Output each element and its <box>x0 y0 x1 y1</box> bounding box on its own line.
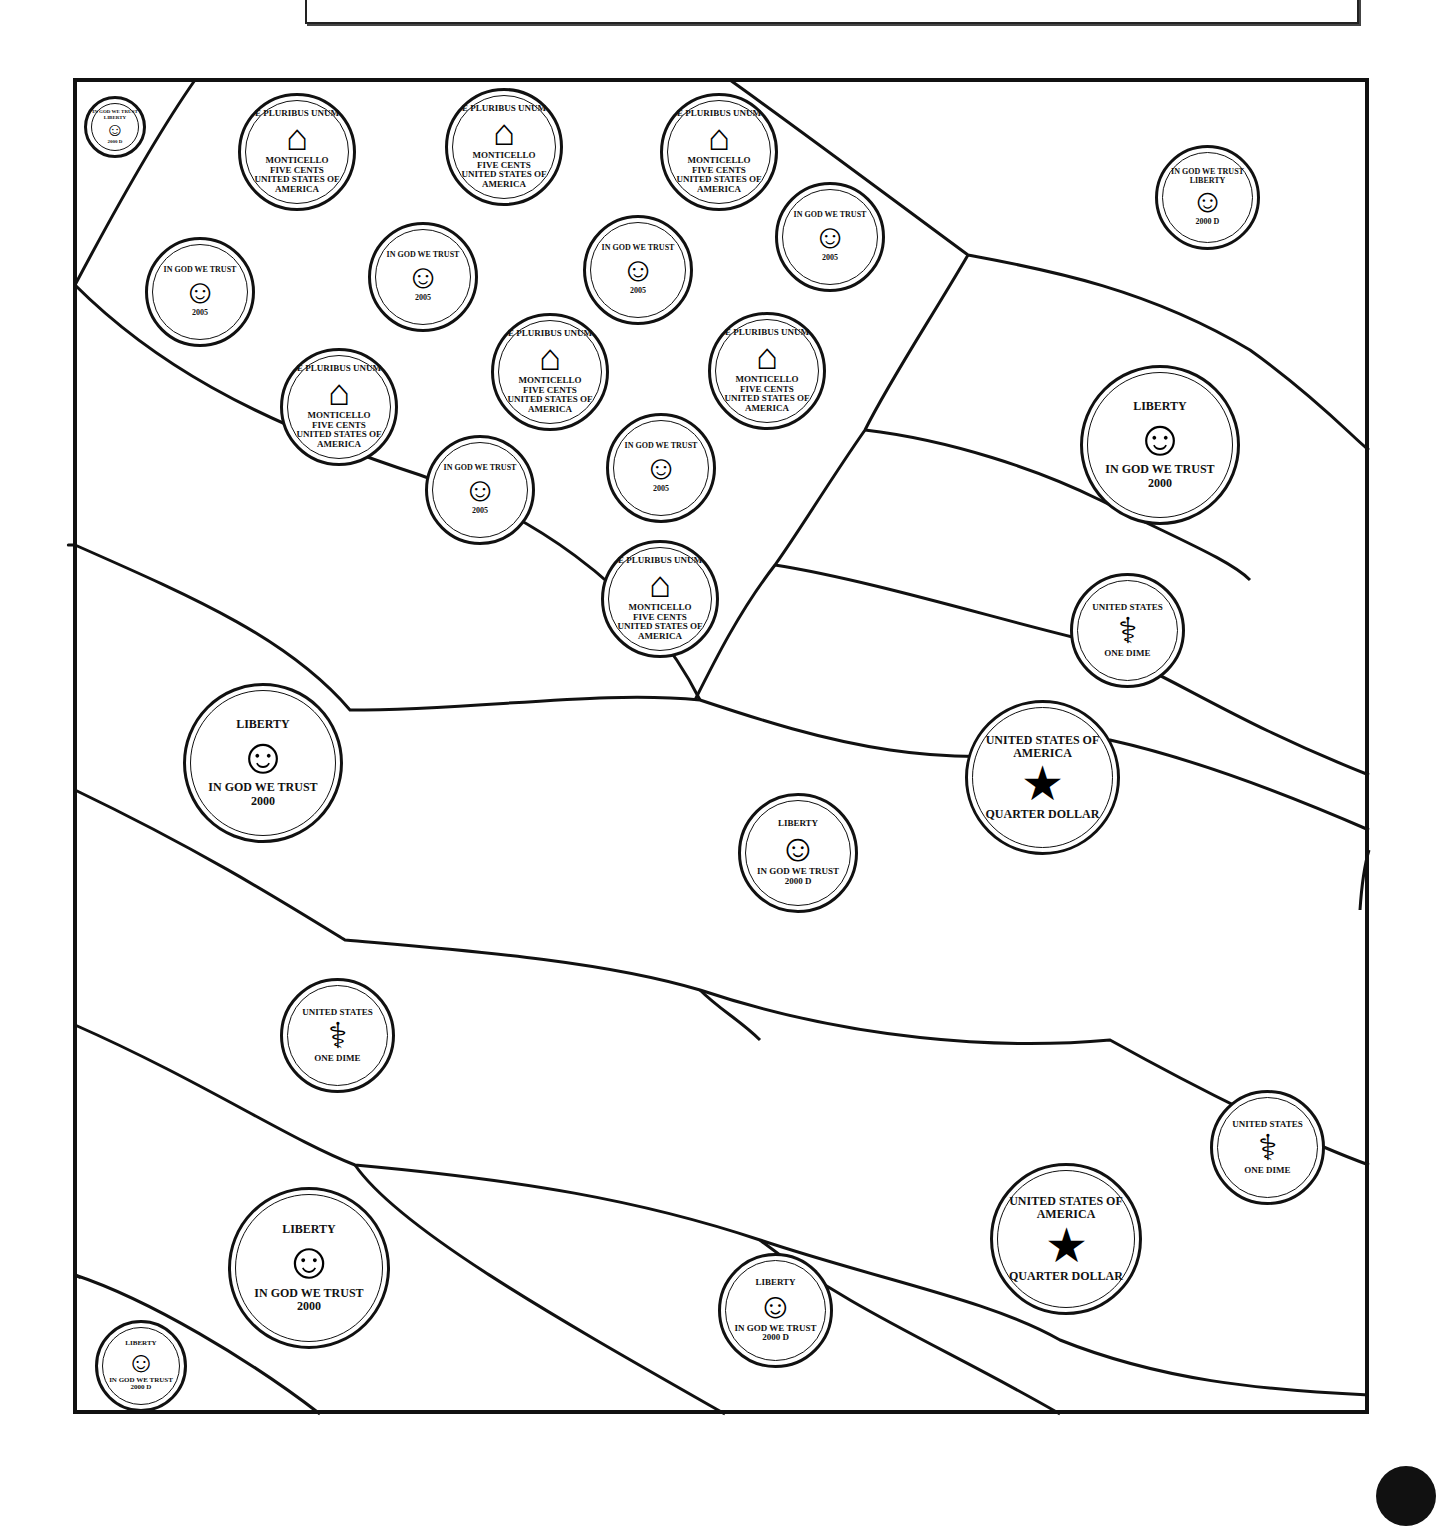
penny-lincoln-icon: ☺ <box>1191 185 1225 218</box>
coin-nickel-back: E PLURIBUS UNUM⌂MONTICELLOFIVE CENTSUNIT… <box>708 312 826 430</box>
coin-year-text: 2000 D <box>131 1384 152 1392</box>
nickel-jefferson-icon: ☺ <box>463 473 498 507</box>
monticello-icon: ⌂ <box>493 114 515 151</box>
torch-icon: ⚕ <box>328 1018 347 1054</box>
monticello-icon: ⌂ <box>756 338 778 375</box>
coin-year-text: 2000 <box>297 1300 321 1313</box>
coin-nickel-back: E PLURIBUS UNUM⌂MONTICELLOFIVE CENTSUNIT… <box>660 93 778 211</box>
coin-nickel-back: E PLURIBUS UNUM⌂MONTICELLOFIVE CENTSUNIT… <box>280 348 398 466</box>
coin-bottom-text: UNITED STATES OF AMERICA <box>448 170 560 190</box>
coin-nickel-front: IN GOD WE TRUST☺2005 <box>368 222 478 332</box>
coin-nickel-front: IN GOD WE TRUST☺2005 <box>583 215 693 325</box>
coin-bottom-text: UNITED STATES OF AMERICA <box>283 430 395 450</box>
eagle-icon: ★ <box>1045 1222 1088 1270</box>
coin-quarter-front: LIBERTY☺IN GOD WE TRUST2000 <box>183 683 343 843</box>
coin-year-text: 2000 D <box>762 1333 789 1343</box>
coin-nickel-front: IN GOD WE TRUST☺2005 <box>775 182 885 292</box>
coin-year-text: 2005 <box>630 287 646 296</box>
coin-year-text: 2005 <box>653 485 669 494</box>
nickel-jefferson-icon: ☺ <box>183 275 218 309</box>
monticello-icon: ⌂ <box>649 566 671 603</box>
coin-motto-text: IN GOD WE TRUST <box>208 781 317 794</box>
page-number-badge <box>1376 1466 1436 1526</box>
coin-nickel-back: E PLURIBUS UNUM⌂MONTICELLOFIVE CENTSUNIT… <box>491 313 609 431</box>
coin-penny: IN GOD WE TRUSTLIBERTY☺2000 D <box>84 96 146 158</box>
monticello-icon: ⌂ <box>328 374 350 411</box>
quarter-washington-icon: ☺ <box>1134 413 1185 463</box>
coin-dime-front: LIBERTY☺IN GOD WE TRUST2000 D <box>738 793 858 913</box>
quarter-washington-icon: ☺ <box>283 1236 335 1287</box>
dime-roosevelt-icon: ☺ <box>779 829 818 867</box>
coin-year-text: 2005 <box>192 309 208 318</box>
coin-year-text: 2000 <box>251 795 275 808</box>
coin-bottom-text: QUARTER DOLLAR <box>986 808 1100 821</box>
coin-motto-text: IN GOD WE TRUST <box>1105 463 1214 476</box>
coin-quarter-back: UNITED STATES OF AMERICA★QUARTER DOLLAR <box>965 700 1120 855</box>
coin-year-text: 2000 D <box>1196 218 1220 227</box>
coin-bottom-text: ONE DIME <box>1244 1166 1290 1176</box>
coin-dime-back: UNITED STATES⚕ONE DIME <box>280 978 395 1093</box>
nickel-jefferson-icon: ☺ <box>813 220 848 254</box>
monticello-icon: ⌂ <box>286 119 308 156</box>
coin-nickel-front: IN GOD WE TRUST☺2005 <box>145 237 255 347</box>
coin-nickel-front: IN GOD WE TRUST☺2005 <box>606 413 716 523</box>
coin-dime-front: LIBERTY☺IN GOD WE TRUST2000 D <box>718 1253 833 1368</box>
coin-bottom-text: UNITED STATES OF AMERICA <box>711 394 823 414</box>
monticello-icon: ⌂ <box>708 119 730 156</box>
coin-bottom-text: UNITED STATES OF AMERICA <box>663 175 775 195</box>
coin-quarter-back: UNITED STATES OF AMERICA★QUARTER DOLLAR <box>990 1163 1142 1315</box>
quarter-washington-icon: ☺ <box>237 731 288 781</box>
coin-year-text: 2005 <box>415 294 431 303</box>
coin-bottom-text: QUARTER DOLLAR <box>1009 1270 1123 1283</box>
coin-nickel-back: E PLURIBUS UNUM⌂MONTICELLOFIVE CENTSUNIT… <box>445 88 563 206</box>
coin-nickel-back: E PLURIBUS UNUM⌂MONTICELLOFIVE CENTSUNIT… <box>238 93 356 211</box>
torch-icon: ⚕ <box>1118 613 1137 649</box>
torch-icon: ⚕ <box>1258 1130 1277 1166</box>
coin-year-text: 2000 D <box>785 877 812 887</box>
coin-bottom-text: ONE DIME <box>314 1054 360 1064</box>
coin-nickel-back: E PLURIBUS UNUM⌂MONTICELLOFIVE CENTSUNIT… <box>601 540 719 658</box>
coin-top-text: UNITED STATES OF AMERICA <box>993 1195 1139 1221</box>
coin-year-text: 2005 <box>822 254 838 263</box>
coin-bottom-text: ONE DIME <box>1104 649 1150 659</box>
nickel-jefferson-icon: ☺ <box>621 253 656 287</box>
coin-nickel-front: IN GOD WE TRUST☺2005 <box>425 435 535 545</box>
coin-bottom-text: UNITED STATES OF AMERICA <box>604 622 716 642</box>
coin-dime-back: UNITED STATES⚕ONE DIME <box>1210 1090 1325 1205</box>
coin-dime-front: LIBERTY☺IN GOD WE TRUST2000 D <box>95 1320 187 1412</box>
coin-year-text: 2000 <box>1148 477 1172 490</box>
coin-bottom-text: UNITED STATES OF AMERICA <box>241 175 353 195</box>
coin-year-text: 2000 D <box>108 139 123 145</box>
eagle-icon: ★ <box>1021 760 1064 808</box>
coin-penny: IN GOD WE TRUSTLIBERTY☺2000 D <box>1155 145 1260 250</box>
dime-roosevelt-icon: ☺ <box>126 1348 156 1377</box>
coin-year-text: 2005 <box>472 507 488 516</box>
dime-roosevelt-icon: ☺ <box>757 1288 794 1324</box>
nickel-jefferson-icon: ☺ <box>644 451 679 485</box>
coin-quarter-front: LIBERTY☺IN GOD WE TRUST2000 <box>228 1187 390 1349</box>
nickel-jefferson-icon: ☺ <box>406 260 441 294</box>
penny-lincoln-icon: ☺ <box>105 120 124 139</box>
monticello-icon: ⌂ <box>539 339 561 376</box>
coin-bottom-text: UNITED STATES OF AMERICA <box>494 395 606 415</box>
coin-quarter-front: LIBERTY☺IN GOD WE TRUST2000 <box>1080 365 1240 525</box>
coin-dime-back: UNITED STATES⚕ONE DIME <box>1070 573 1185 688</box>
